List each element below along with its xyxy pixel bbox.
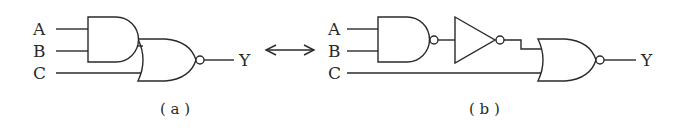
input-label-b-B: B	[328, 41, 341, 61]
input-label-a-C: C	[33, 63, 46, 83]
nand-gate-b	[378, 17, 430, 62]
input-label-b-A: A	[327, 19, 341, 39]
double-arrow-icon	[266, 45, 314, 55]
wire-b-not-to-nor	[504, 40, 544, 49]
and-gate-a	[88, 17, 139, 62]
circuit-a: A B C Y ( a )	[32, 17, 251, 118]
nand-bubble-b	[430, 36, 438, 44]
not-bubble-b	[496, 36, 504, 44]
output-label-b-Y: Y	[640, 50, 653, 70]
output-label-a-Y: Y	[238, 50, 251, 70]
nor-gate-a	[138, 39, 196, 81]
caption-a: ( a )	[160, 100, 190, 118]
circuit-b: A B C Y ( b )	[327, 17, 653, 118]
input-label-a-A: A	[32, 19, 46, 39]
not-gate-b	[455, 17, 495, 63]
nor-bubble-b	[596, 56, 604, 64]
nor-gate-b	[538, 39, 596, 81]
inversion-bubble-a	[196, 56, 204, 64]
input-label-a-B: B	[33, 41, 46, 61]
caption-b: ( b )	[469, 100, 500, 118]
input-label-b-C: C	[328, 63, 341, 83]
logic-circuit-diagram: A B C Y ( a ) A B C	[0, 0, 684, 131]
